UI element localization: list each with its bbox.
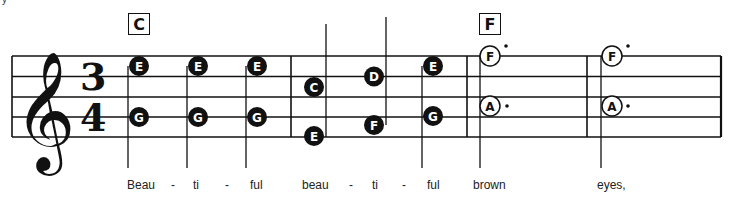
chord-symbol-f: F [479,13,501,35]
time-signature-top: 3 [80,54,106,99]
note-chord-8: F A [602,44,630,116]
lyric-syllable: ful [250,178,263,192]
lyric-syllable: beau [302,178,329,192]
note-label: E [194,60,202,74]
note-chord-7: F A [480,44,509,116]
time-signature: 3 4 [80,54,106,140]
lyric-syllable: ti [372,178,378,192]
dot-icon [626,104,630,108]
note-chord-3: E G [247,56,267,127]
note-label: D [369,70,379,84]
lyric-word: eyes, [597,178,626,192]
chord-symbol-c: C [128,13,150,35]
svg-text:𝄞: 𝄞 [14,49,75,176]
note-chord-4: C E [304,77,324,146]
dot-icon [626,44,630,48]
lyric-hyphen: - [402,178,406,192]
note-label: G [252,111,262,125]
note-label: G [134,111,144,125]
note-label: E [135,60,143,74]
dot-icon [505,104,509,108]
lyric-hyphen: - [171,178,175,192]
note-label: F [486,50,494,64]
treble-clef-icon: 𝄞 [14,49,75,176]
note-label: E [253,60,261,74]
lyric-hyphen: - [349,178,353,192]
note-chord-1: E G [129,56,149,127]
note-label: A [485,100,495,114]
time-signature-bottom: 4 [80,95,106,140]
note-label: C [310,81,319,95]
corner-mark: y [2,0,7,5]
lyric-syllable: ti [193,178,199,192]
note-label: F [608,50,616,64]
note-label: A [607,100,617,114]
note-label: F [370,119,378,133]
staff-notation: 𝄞 3 4 E G E G [0,0,732,197]
lyric-hyphen: - [225,178,229,192]
note-label: G [193,111,203,125]
note-label: E [429,60,437,74]
note-label: E [310,130,318,144]
note-label: G [428,110,438,124]
lyric-word: brown [473,178,506,192]
note-chord-6: E G [423,56,443,126]
dot-icon [504,44,508,48]
lyric-syllable: Beau [127,178,155,192]
note-chord-5: D F [364,67,384,136]
note-chord-2: E G [188,56,208,127]
lyric-syllable: ful [427,178,440,192]
note-stems [128,17,601,168]
